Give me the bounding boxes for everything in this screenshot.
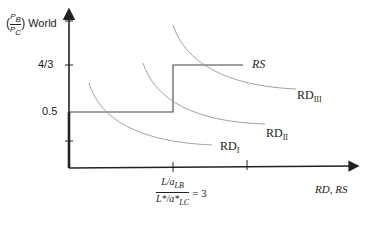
rs-label: RS (252, 57, 265, 72)
y-tick-label-0-5: 0.5 (42, 105, 57, 117)
y-tick-label-4-3: 4/3 (38, 58, 53, 70)
rd2-label: RDII (266, 126, 288, 142)
y-axis-fraction: PBPC (10, 12, 21, 37)
rd3-curve (173, 25, 296, 89)
x-axis-label: RD, RS (315, 183, 347, 195)
x-tick-label-3: L/aLB L*/a*LC = 3 (156, 176, 207, 209)
x-axis (69, 166, 354, 168)
rd1-curve (89, 83, 212, 145)
y-axis-label: (PBPC) World (6, 12, 57, 37)
rd3-label: RDIII (297, 88, 322, 104)
rd1-label: RDI (220, 139, 239, 155)
rd2-curve (143, 63, 265, 124)
